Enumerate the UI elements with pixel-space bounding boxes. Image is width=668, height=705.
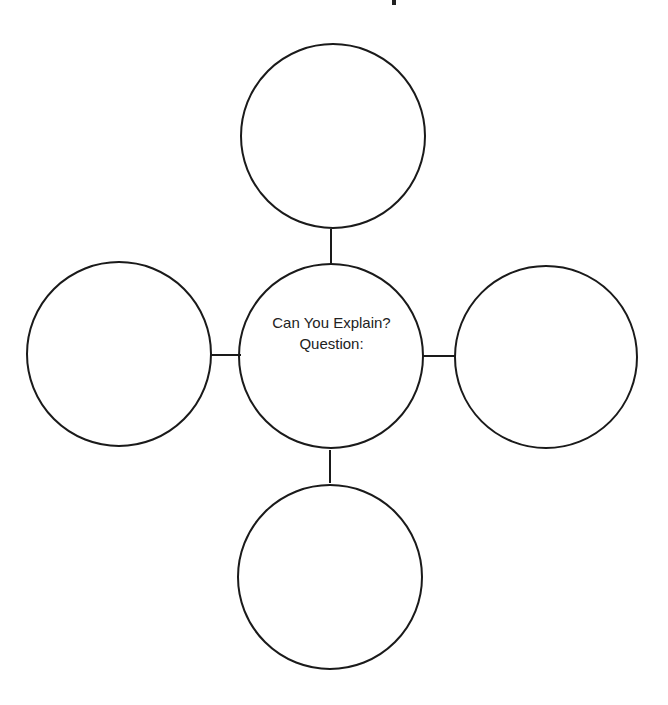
center-label-line1: Can You Explain?: [241, 312, 422, 333]
center-label-line2: Question:: [241, 333, 422, 354]
top-circle: [241, 44, 425, 228]
left-circle: [27, 262, 211, 446]
center-label: Can You Explain? Question:: [241, 312, 422, 354]
center-circle: [239, 264, 423, 448]
right-circle: [455, 266, 637, 448]
bottom-circle: [238, 485, 422, 669]
